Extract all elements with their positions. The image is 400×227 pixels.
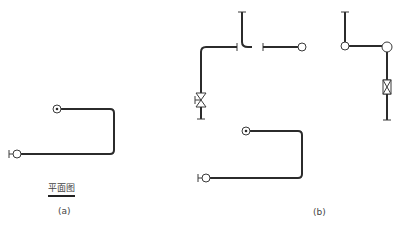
plan-view-label: 平面图 (48, 181, 75, 197)
panel-a-caption: (a) (58, 206, 71, 216)
panel-b-caption: (b) (313, 207, 326, 217)
riser-circle-icon (341, 42, 349, 50)
valve-icon (383, 80, 391, 94)
riser-up-icon (53, 105, 61, 113)
panel-b-system-left (195, 12, 306, 119)
riser-down-icon (298, 43, 306, 51)
riser-circle-icon (382, 42, 392, 52)
riser-down-end-icon (198, 174, 210, 182)
riser-down-end-icon (9, 150, 21, 158)
riser-pipe (242, 12, 252, 47)
panel-b-plan-pipe (198, 127, 302, 182)
branch-pipe-left (201, 47, 237, 93)
panel-a-plan-pipe (9, 105, 114, 158)
pipe-run-b (210, 131, 302, 178)
pipe-run-a (21, 109, 114, 154)
panel-b-system-right (341, 12, 392, 120)
valve-icon (195, 93, 206, 107)
riser-up-icon (242, 127, 250, 135)
